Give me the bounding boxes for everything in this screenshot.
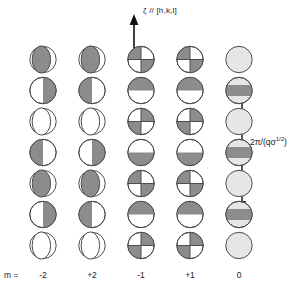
circle-glyph-plus1-row-3 — [173, 106, 207, 137]
column-label-plus2: +2 — [75, 270, 109, 280]
period-scale-label-suffix: ) — [284, 137, 287, 147]
circle-glyph-plus1-row-7 — [173, 230, 207, 261]
circle-glyph-0-row-4 — [222, 137, 256, 168]
column-m-plus-1 — [173, 44, 207, 261]
circle-glyph-minus1-row-3 — [124, 106, 158, 137]
circle-glyph-minus1-row-5 — [124, 168, 158, 199]
circle-glyph-plus1-row-2 — [173, 75, 207, 106]
circle-glyph-plus2-row-3 — [75, 106, 109, 137]
circle-glyph-minus2-row-7 — [26, 230, 60, 261]
period-scale-label-exponent: 1/2 — [276, 136, 284, 142]
circle-glyph-0-row-7 — [222, 230, 256, 261]
circle-glyph-minus2-row-6 — [26, 199, 60, 230]
circle-glyph-0-row-1 — [222, 44, 256, 75]
circle-glyph-minus2-row-1 — [26, 44, 60, 75]
column-label-0: 0 — [222, 270, 256, 280]
circle-glyph-0-row-5 — [222, 168, 256, 199]
column-label-plus1: +1 — [173, 270, 207, 280]
m-equals-label: m = — [4, 270, 18, 280]
circle-glyph-0-row-3 — [222, 106, 256, 137]
circle-glyph-plus2-row-2 — [75, 75, 109, 106]
circle-glyph-plus1-row-1 — [173, 44, 207, 75]
circle-glyph-minus2-row-2 — [26, 75, 60, 106]
circle-glyph-minus1-row-4 — [124, 137, 158, 168]
circle-glyph-plus2-row-7 — [75, 230, 109, 261]
circle-glyph-minus1-row-7 — [124, 230, 158, 261]
circle-glyph-plus2-row-4 — [75, 137, 109, 168]
circle-glyph-minus1-row-6 — [124, 199, 158, 230]
circle-glyph-minus2-row-4 — [26, 137, 60, 168]
circle-glyph-plus1-row-6 — [173, 199, 207, 230]
circle-glyph-plus2-row-5 — [75, 168, 109, 199]
circle-glyph-plus2-row-1 — [75, 44, 109, 75]
zeta-axis-arrow-icon — [128, 14, 140, 48]
circle-glyph-0-row-6 — [222, 199, 256, 230]
zeta-axis-label: ζ // [h,k,l] — [143, 6, 177, 15]
circle-glyph-minus2-row-5 — [26, 168, 60, 199]
column-m-minus-2 — [26, 44, 60, 261]
circle-glyph-0-row-2 — [222, 75, 256, 106]
circle-glyph-minus2-row-3 — [26, 106, 60, 137]
circle-glyph-plus2-row-6 — [75, 199, 109, 230]
column-m-plus-2 — [75, 44, 109, 261]
column-label-minus2: -2 — [26, 270, 60, 280]
column-m-minus-1 — [124, 44, 158, 261]
phason-mode-diagram: ζ // [h,k,l] 2π/(qσ1/2) m = -2+2-1+10 — [0, 0, 297, 291]
circle-glyph-minus1-row-1 — [124, 44, 158, 75]
column-m-zero — [222, 44, 256, 261]
circle-glyph-plus1-row-4 — [173, 137, 207, 168]
circle-glyph-plus1-row-5 — [173, 168, 207, 199]
column-label-minus1: -1 — [124, 270, 158, 280]
circle-glyph-minus1-row-2 — [124, 75, 158, 106]
